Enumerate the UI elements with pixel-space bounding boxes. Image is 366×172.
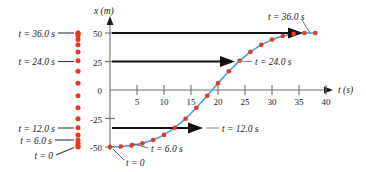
position-time-motion-diagram: 50 25 0 -25 -50 5 10 15 20 25 30 35 40 x… <box>0 0 366 172</box>
left-label-t24: t = 24.0 s <box>19 57 56 67</box>
x-tick-label-25: 25 <box>241 97 251 107</box>
curve-dot <box>205 93 210 98</box>
curve-dot <box>119 144 124 149</box>
x-axis-arrowhead <box>324 87 333 94</box>
curve-dot <box>302 31 307 36</box>
x-tick-label-10: 10 <box>160 97 170 107</box>
curve-dot <box>281 34 286 39</box>
curve-label-t36: t = 36.0 s <box>268 12 305 22</box>
strip-dot <box>76 69 81 74</box>
curve-label-t0: t = 0 <box>126 158 145 168</box>
curve-dot <box>270 37 275 42</box>
curve-dot <box>151 138 156 143</box>
curve-dot <box>140 141 145 146</box>
figure-canvas: 50 25 0 -25 -50 5 10 15 20 25 30 35 40 x… <box>0 0 366 172</box>
x-tick-labels: 5 10 15 20 25 30 35 40 <box>135 97 331 107</box>
y-tick-label-25: 25 <box>93 58 103 68</box>
y-axis-arrowhead <box>107 16 114 25</box>
strip-dot <box>76 31 81 36</box>
leader-line-0 <box>56 148 74 156</box>
arrow-12-head <box>188 123 203 134</box>
curve-dot <box>162 133 167 138</box>
curve-dot <box>108 145 113 150</box>
x-tick-label-20: 20 <box>214 97 224 107</box>
arrow-24-head <box>220 56 235 67</box>
y-tick-label-50: 50 <box>93 29 103 39</box>
curve-dot <box>173 126 178 131</box>
left-time-labels: t = 36.0 s t = 24.0 s t = 12.0 s t = 6.0… <box>19 29 56 161</box>
strip-dot <box>76 42 81 47</box>
curve-dot <box>248 50 253 55</box>
curve-label-t6: t = 6.0 s <box>151 144 183 154</box>
strip-dot <box>76 137 81 142</box>
strip-dot <box>76 81 81 86</box>
measurement-arrows <box>112 28 303 134</box>
curve-dot <box>291 32 296 37</box>
strip-dot <box>76 116 81 121</box>
y-tick-label-neg50: -50 <box>90 143 102 153</box>
left-label-t12: t = 12.0 s <box>19 124 56 134</box>
y-tick-labels: 50 25 0 -25 -50 <box>90 29 103 153</box>
curve-leader-t0 <box>113 149 124 160</box>
x-tick-label-30: 30 <box>268 97 278 107</box>
strip-dot <box>76 58 81 63</box>
motion-diagram-dot-strip <box>76 31 81 150</box>
strip-dot <box>76 49 81 54</box>
x-tick-label-5: 5 <box>135 97 140 107</box>
x-tick-label-15: 15 <box>187 97 197 107</box>
curve-dot <box>216 81 221 86</box>
x-tick-label-35: 35 <box>295 97 305 107</box>
strip-dot <box>76 125 81 130</box>
x-axis-title: t (s) <box>338 85 353 96</box>
y-tick-label-0: 0 <box>98 86 103 96</box>
curve-dot <box>313 31 318 36</box>
curve-dot <box>259 43 264 48</box>
left-label-t0: t = 0 <box>34 151 53 161</box>
strip-dot <box>76 105 81 110</box>
curve-label-t12: t = 12.0 s <box>222 124 259 134</box>
y-tick-label-neg25: -25 <box>90 115 102 125</box>
y-axis-title: x (m) <box>93 6 114 17</box>
strip-dot <box>76 93 81 98</box>
curve-label-t24: t = 24.0 s <box>255 57 292 67</box>
left-label-t6: t = 6.0 s <box>20 136 52 146</box>
x-tick-label-40: 40 <box>322 97 332 107</box>
curve-dot <box>183 116 188 121</box>
curve-dot <box>194 105 199 110</box>
curve-dot <box>227 69 232 74</box>
left-label-t36: t = 36.0 s <box>19 29 56 39</box>
left-leader-lines <box>55 33 74 155</box>
strip-dot <box>76 132 81 137</box>
curve-dot <box>237 59 242 64</box>
